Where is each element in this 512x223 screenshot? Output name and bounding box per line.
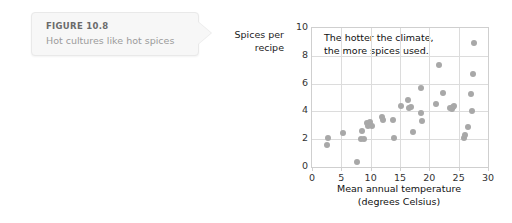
grid-line-vertical: [400, 28, 401, 167]
x-axis-label: Mean annual temperature (degrees Celsius…: [274, 182, 512, 208]
data-point: [419, 118, 425, 124]
data-point: [469, 108, 475, 114]
data-point: [462, 132, 468, 138]
data-point: [418, 110, 424, 116]
data-point: [380, 117, 386, 123]
callout-pointer-icon: [198, 22, 211, 44]
figure-number: FIGURE 10.8: [46, 20, 198, 33]
y-tick-label: 2: [290, 133, 308, 143]
grid-line-vertical: [429, 28, 430, 167]
data-point: [440, 90, 446, 96]
scatter-chart: Spices per recipe 0246810 The hotter the…: [224, 8, 506, 218]
x-axis-label-line2: (degrees Celsius): [274, 195, 512, 208]
grid-line-horizontal: [312, 56, 488, 57]
x-tick-mark: [341, 167, 342, 171]
x-tick-mark: [312, 167, 313, 171]
data-point: [354, 159, 360, 165]
figure-callout: FIGURE 10.8 Hot cultures like hot spices: [31, 12, 199, 56]
x-axis-label-line1: Mean annual temperature: [274, 182, 512, 195]
data-point: [471, 40, 477, 46]
data-point: [436, 62, 442, 68]
grid-line-vertical: [371, 28, 372, 167]
x-axis-ticks: 051015202530: [311, 168, 489, 182]
data-point: [391, 135, 397, 141]
plot-area: The hotter the climate, the more spices …: [311, 27, 489, 168]
data-point: [418, 85, 424, 91]
data-point: [324, 142, 330, 148]
data-point: [468, 91, 474, 97]
data-point: [451, 103, 457, 109]
data-point: [433, 101, 439, 107]
data-point: [405, 97, 411, 103]
grid-line-vertical: [341, 28, 342, 167]
x-tick-mark: [429, 167, 430, 171]
x-tick-mark: [459, 167, 460, 171]
data-point: [408, 104, 414, 110]
grid-line-vertical: [459, 28, 460, 167]
data-point: [465, 124, 471, 130]
grid-line-horizontal: [312, 84, 488, 85]
y-tick-label: 6: [290, 78, 308, 88]
y-axis-label-line1: Spices per: [224, 28, 284, 41]
data-point: [410, 129, 416, 135]
data-point: [390, 117, 396, 123]
y-tick-label: 0: [290, 161, 308, 171]
y-tick-label: 4: [290, 105, 308, 115]
data-point: [398, 103, 404, 109]
y-tick-label: 8: [290, 50, 308, 60]
figure-caption: Hot cultures like hot spices: [46, 33, 198, 48]
x-tick-mark: [488, 167, 489, 171]
data-point: [340, 130, 346, 136]
data-point: [359, 128, 365, 134]
y-axis-label-line2: recipe: [224, 41, 284, 54]
grid-line-horizontal: [312, 111, 488, 112]
y-tick-label: 10: [290, 22, 308, 32]
y-axis-label: Spices per recipe: [224, 28, 284, 54]
data-point: [470, 71, 476, 77]
data-point: [369, 123, 375, 129]
data-point: [361, 136, 367, 142]
x-tick-mark: [371, 167, 372, 171]
x-tick-mark: [400, 167, 401, 171]
